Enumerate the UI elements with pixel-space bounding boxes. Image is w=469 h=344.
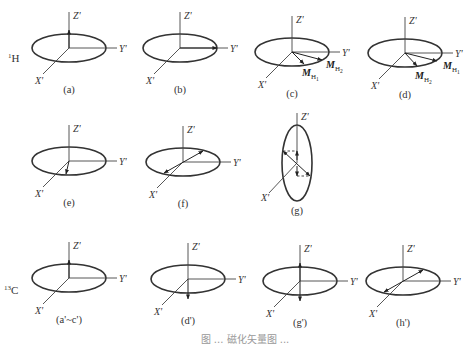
x-axis-label: X'	[260, 192, 270, 203]
panel-hp: Z'Y'X'(h')	[366, 243, 462, 329]
magnetization-vector-figure: Z'Y'X'(a)Z'Y'X'(b)Z'Y'X'(c)MH1MH2Z'Y'X'(…	[0, 0, 469, 344]
z-axis-label: Z'	[296, 14, 305, 25]
y-axis-label: Y'	[453, 276, 462, 287]
y-axis-label: Y'	[119, 43, 128, 54]
x-axis-label: X'	[370, 80, 380, 91]
x-axis	[266, 52, 292, 78]
z-axis-label: Z'	[301, 111, 310, 122]
y-axis-label: Y'	[119, 156, 128, 167]
panel-g: Z'X'(g)	[260, 111, 312, 217]
panel-caption: (h')	[396, 317, 411, 329]
panel-caption: (b)	[174, 84, 187, 96]
y-axis-label: Y'	[230, 43, 239, 54]
panel-caption: (f)	[178, 198, 189, 210]
panel-caption: (g')	[293, 317, 308, 329]
x-axis-label: X'	[265, 308, 275, 319]
y-axis-label: Y'	[233, 157, 242, 168]
panel-d: Z'Y'X'(d)MH2MH1	[368, 15, 464, 101]
panel-caption: (a'~c')	[56, 314, 82, 326]
z-axis-label: Z'	[304, 243, 313, 254]
y-axis-label: Y'	[350, 276, 359, 287]
z-axis-label: Z'	[184, 10, 193, 21]
x-axis-label: X'	[145, 75, 155, 86]
panel-caption: (c)	[286, 88, 298, 100]
x-axis-label: X'	[34, 305, 44, 316]
x-axis	[43, 278, 69, 304]
x-axis-label: X'	[368, 308, 378, 319]
x-axis	[43, 161, 69, 187]
panel-dp: Z'Y'X'(d')	[151, 241, 247, 327]
nucleus-labels: 1H13C	[4, 52, 20, 296]
z-axis-label: Z'	[407, 243, 416, 254]
x-axis	[157, 162, 183, 188]
panel-ac: Z'Y'X'(a'~c')	[32, 240, 128, 326]
vector-label: MH1	[301, 67, 319, 82]
x-axis	[162, 279, 188, 305]
x-axis	[269, 163, 297, 193]
x-axis	[43, 48, 69, 74]
x-axis-label: X'	[34, 188, 44, 199]
x-axis	[377, 281, 403, 307]
panel-a: Z'Y'X'(a)	[32, 10, 128, 96]
z-axis-label: Z'	[409, 15, 418, 26]
panel-caption: (a)	[63, 84, 75, 96]
x-axis-label: X'	[34, 75, 44, 86]
x-axis-label: X'	[257, 79, 267, 90]
panel-c: Z'Y'X'(c)MH1MH2	[255, 14, 351, 100]
x-axis	[154, 48, 180, 74]
nucleus-label-c13: 13C	[4, 284, 18, 296]
panel-caption: (d)	[399, 89, 412, 101]
z-axis-label: Z'	[73, 10, 82, 21]
z-axis-label: Z'	[73, 123, 82, 134]
magnetization-vector	[405, 53, 437, 61]
z-axis-label: Z'	[187, 124, 196, 135]
panel-caption: (e)	[63, 197, 75, 209]
panel-b: Z'Y'X'(b)	[143, 10, 239, 96]
y-axis-label: Y'	[238, 274, 247, 285]
x-axis	[274, 281, 300, 307]
y-axis-label: Y'	[455, 48, 464, 59]
panel-f: Z'Y'X'(f)	[146, 124, 242, 210]
z-axis-label: Z'	[192, 241, 201, 252]
x-axis-label: X'	[148, 189, 158, 200]
panel-gp: Z'Y'X'(g')	[263, 243, 359, 329]
nucleus-label-h1: 1H	[8, 52, 20, 64]
y-axis-label: Y'	[119, 273, 128, 284]
panel-caption: (d')	[181, 315, 196, 327]
panel-group: Z'Y'X'(a)Z'Y'X'(b)Z'Y'X'(c)MH1MH2Z'Y'X'(…	[32, 10, 464, 329]
x-axis-label: X'	[153, 306, 163, 317]
panel-caption: (g)	[291, 205, 304, 217]
y-axis-label: Y'	[342, 47, 351, 58]
x-axis	[379, 53, 405, 79]
panel-e: Z'Y'X'(e)	[32, 123, 128, 209]
vector-label: MH2	[414, 70, 432, 85]
figure-caption: 图 ... 磁化矢量图 ...	[201, 333, 290, 344]
vector-label: MH1	[442, 60, 460, 75]
vector-label: MH2	[325, 59, 343, 74]
z-axis-label: Z'	[73, 240, 82, 251]
